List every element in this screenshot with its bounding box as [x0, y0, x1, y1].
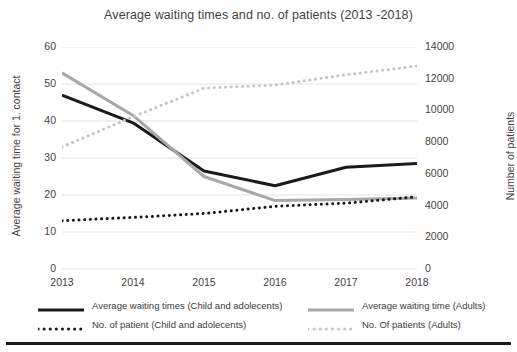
y-tick-right-14000: 14000 — [425, 40, 471, 52]
y-tick-left-30: 30 — [16, 151, 56, 163]
y-tick-left-50: 50 — [16, 77, 56, 89]
legend-item[interactable]: No. Of patients (Adults) — [308, 319, 461, 330]
chart-legend: Average waiting times (Child and adolece… — [20, 300, 510, 336]
y-tick-left-10: 10 — [16, 225, 56, 237]
legend-item[interactable]: No. of patient (Child and adolecents) — [38, 319, 246, 330]
legend-swatch-icon — [38, 320, 84, 330]
y-tick-right-4000: 4000 — [425, 199, 471, 211]
legend-item[interactable]: Average waiting time (Adults) — [308, 300, 485, 311]
x-tick-2017: 2017 — [316, 276, 376, 288]
chart-title: Average waiting times and no. of patient… — [0, 8, 517, 22]
x-tick-2013: 2013 — [32, 276, 92, 288]
y-tick-left-60: 60 — [16, 40, 56, 52]
x-tick-2016: 2016 — [245, 276, 305, 288]
series-line-1 — [62, 73, 417, 201]
footer-divider — [6, 342, 511, 345]
y-tick-left-0: 0 — [16, 262, 56, 274]
legend-swatch-icon — [38, 301, 84, 311]
legend-swatch-icon — [308, 320, 354, 330]
y-tick-right-8000: 8000 — [425, 135, 471, 147]
chart-svg — [62, 47, 417, 271]
y-tick-right-10000: 10000 — [425, 103, 471, 115]
y-tick-right-2000: 2000 — [425, 230, 471, 242]
legend-label: Average waiting times (Child and adolece… — [92, 300, 282, 311]
y-tick-right-12000: 12000 — [425, 72, 471, 84]
x-tick-2018: 2018 — [387, 276, 447, 288]
legend-label: Average waiting time (Adults) — [362, 300, 485, 311]
legend-swatch-icon — [308, 301, 354, 311]
x-tick-2015: 2015 — [174, 276, 234, 288]
legend-item[interactable]: Average waiting times (Child and adolece… — [38, 300, 282, 311]
chart-container: Average waiting times and no. of patient… — [0, 0, 517, 352]
y-tick-right-6000: 6000 — [425, 167, 471, 179]
y-tick-right-0: 0 — [425, 262, 471, 274]
series-line-0 — [62, 95, 417, 186]
legend-label: No. of patient (Child and adolecents) — [92, 319, 246, 330]
y-axis-right-title: Number of patients — [504, 66, 516, 246]
y-tick-left-20: 20 — [16, 188, 56, 200]
y-tick-left-40: 40 — [16, 114, 56, 126]
x-tick-2014: 2014 — [103, 276, 163, 288]
legend-label: No. Of patients (Adults) — [362, 319, 461, 330]
plot-area — [62, 47, 417, 269]
